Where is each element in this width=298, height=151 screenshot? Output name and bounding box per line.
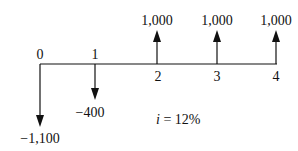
cash-flow-period-2: 2 1,000 [141, 13, 173, 84]
arrow-down-icon [91, 88, 99, 100]
cash-flow-value: −400 [76, 105, 105, 120]
interest-value: = 12% [160, 112, 201, 127]
arrow-down-icon [36, 115, 44, 127]
cash-flow-value: −1,100 [20, 131, 59, 146]
period-label: 2 [155, 69, 162, 84]
cash-flow-period-1: 1 −400 [76, 47, 105, 120]
cash-flow-period-0: 0 −1,100 [20, 47, 59, 146]
period-label: 3 [214, 69, 221, 84]
cash-flow-value: 1,000 [260, 13, 292, 28]
interest-rate-label: i = 12% [156, 112, 201, 127]
cash-flow-value: 1,000 [201, 13, 233, 28]
arrow-up-icon [213, 30, 221, 42]
arrow-up-icon [272, 30, 280, 42]
cash-flow-period-4: 4 1,000 [260, 13, 292, 84]
period-label: 0 [37, 47, 44, 62]
period-label: 1 [92, 47, 99, 62]
period-label: 4 [273, 69, 280, 84]
cash-flow-period-3: 3 1,000 [201, 13, 233, 84]
cash-flow-value: 1,000 [141, 13, 173, 28]
cash-flow-diagram: 0 −1,100 1 −400 2 1,000 3 1,000 4 1,000 … [0, 0, 298, 151]
arrow-up-icon [153, 30, 161, 42]
